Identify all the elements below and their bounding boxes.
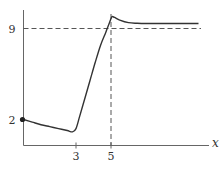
- ticks: 3529: [9, 23, 115, 163]
- start-point-marker: [20, 117, 25, 122]
- y-tick-label: 9: [9, 23, 16, 36]
- chart: x 3529: [0, 0, 221, 169]
- reference-lines: [24, 14, 202, 146]
- x-tick-label: 5: [108, 150, 115, 163]
- x-axis-label: x: [212, 136, 219, 150]
- x-tick-label: 3: [73, 150, 80, 163]
- y-tick-label: 2: [9, 114, 16, 127]
